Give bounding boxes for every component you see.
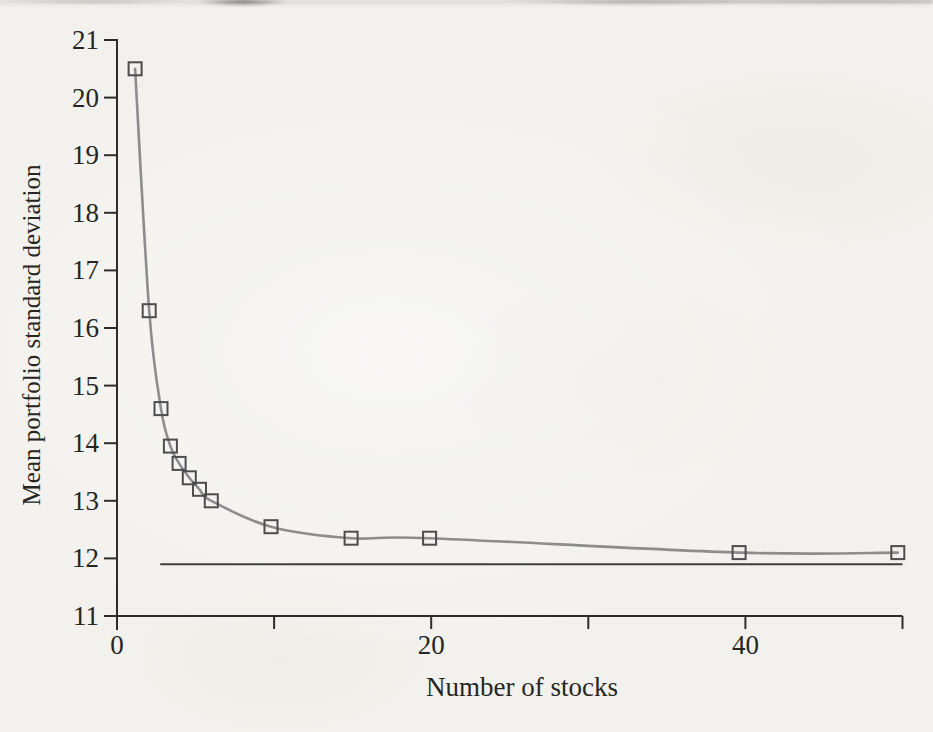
x-axis-title: Number of stocks: [426, 672, 618, 702]
x-tick-label: 20: [418, 630, 445, 660]
y-tick-label: 20: [72, 83, 99, 113]
y-tick-label: 14: [72, 428, 100, 458]
x-tick-label: 40: [732, 630, 759, 660]
y-tick-label: 18: [72, 198, 99, 228]
diversification-chart: 020401112131415161718192021 Number of st…: [0, 0, 933, 732]
y-tick-label: 11: [73, 601, 99, 631]
x-tick-label: 0: [110, 630, 124, 660]
scanned-page: 020401112131415161718192021 Number of st…: [0, 0, 933, 732]
y-tick-label: 19: [72, 140, 99, 170]
y-tick-label: 13: [72, 486, 99, 516]
y-tick-label: 15: [72, 371, 99, 401]
y-tick-label: 17: [72, 255, 99, 285]
y-tick-label: 16: [72, 313, 99, 343]
y-axis-title: Mean portfolio standard deviation: [18, 164, 45, 505]
y-tick-label: 12: [72, 543, 99, 573]
chart-curve: [135, 69, 898, 554]
y-tick-label: 21: [72, 25, 99, 55]
